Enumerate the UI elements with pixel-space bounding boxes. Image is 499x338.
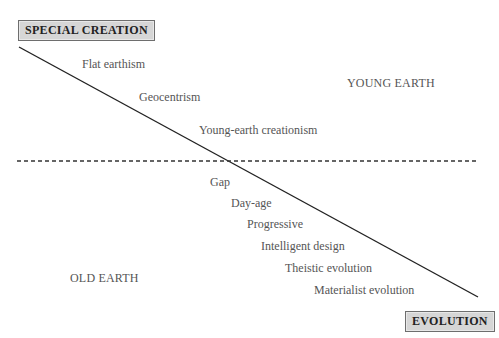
position-label-flat-earthism: Flat earthism	[82, 57, 145, 72]
evolution-box: EVOLUTION	[405, 311, 495, 332]
position-label-intelligent-design: Intelligent design	[261, 239, 345, 254]
young-earth-region-label: YOUNG EARTH	[347, 76, 435, 91]
position-label-progressive: Progressive	[247, 217, 303, 232]
diagram-lines	[0, 0, 499, 338]
position-label-gap: Gap	[210, 175, 230, 190]
position-label-young-earth-creationism: Young-earth creationism	[199, 123, 317, 138]
position-label-geocentrism: Geocentrism	[139, 90, 200, 105]
position-label-materialist-evolution: Materialist evolution	[314, 283, 414, 298]
position-label-theistic-evolution: Theistic evolution	[285, 261, 372, 276]
old-earth-region-label: OLD EARTH	[70, 271, 139, 286]
position-label-day-age: Day-age	[231, 196, 272, 211]
special-creation-box: SPECIAL CREATION	[18, 20, 155, 41]
